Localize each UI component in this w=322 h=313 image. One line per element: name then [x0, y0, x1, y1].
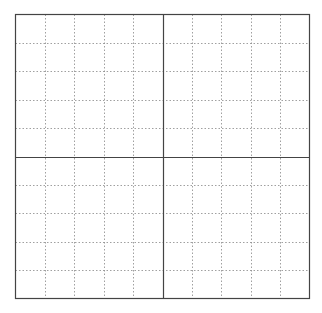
minor-gridlines	[16, 15, 310, 299]
grid-border	[16, 15, 310, 299]
grid-diagram	[0, 0, 322, 313]
axis-lines	[16, 15, 310, 299]
